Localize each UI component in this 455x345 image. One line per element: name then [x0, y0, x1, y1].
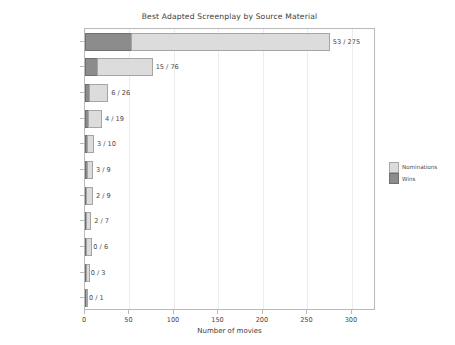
- x-tick-label: 300: [345, 316, 358, 324]
- bar-segment-nominations[interactable]: [89, 84, 108, 102]
- y-tick-mark: [80, 220, 84, 221]
- x-tick-label: 250: [300, 316, 313, 324]
- bar-segment-nominations[interactable]: [97, 58, 152, 76]
- bar-segment-wins[interactable]: [85, 58, 98, 76]
- y-tick-mark: [80, 92, 84, 93]
- legend-label: Nominations: [402, 164, 437, 170]
- chart-legend: NominationsWins: [389, 161, 437, 185]
- x-tick-mark: [217, 310, 218, 314]
- bar-value-label: 6 / 26: [108, 89, 130, 97]
- x-tick-label: 100: [167, 316, 180, 324]
- bar-series-group: 53 / 27515 / 766 / 264 / 193 / 103 / 92 …: [85, 29, 374, 309]
- bar-segment-nominations[interactable]: [87, 135, 94, 153]
- bar-row[interactable]: [85, 187, 93, 205]
- y-tick-mark: [80, 143, 84, 144]
- y-tick-mark: [80, 118, 84, 119]
- legend-label: Wins: [402, 176, 415, 182]
- x-tick-mark: [262, 310, 263, 314]
- bar-segment-nominations[interactable]: [131, 33, 330, 51]
- plot-area: 53 / 27515 / 766 / 264 / 193 / 103 / 92 …: [84, 28, 375, 310]
- x-tick-mark: [84, 310, 85, 314]
- x-axis-label: Number of movies: [84, 327, 375, 335]
- bar-row[interactable]: [85, 110, 102, 128]
- bar-value-label: 0 / 3: [88, 269, 106, 277]
- x-tick-mark: [306, 310, 307, 314]
- bar-value-label: 0 / 1: [86, 294, 104, 302]
- bar-value-label: 2 / 9: [93, 192, 111, 200]
- bar-row[interactable]: [85, 161, 93, 179]
- y-tick-mark: [80, 195, 84, 196]
- x-tick-mark: [128, 310, 129, 314]
- bar-segment-wins[interactable]: [85, 33, 132, 51]
- y-tick-mark: [80, 66, 84, 67]
- legend-swatch: [389, 162, 399, 173]
- legend-item[interactable]: Wins: [389, 173, 437, 185]
- chart-title: Best Adapted Screenplay by Source Materi…: [84, 12, 375, 21]
- bar-value-label: 2 / 7: [91, 217, 109, 225]
- bar-value-label: 53 / 275: [330, 38, 360, 46]
- y-tick-mark: [80, 41, 84, 42]
- bar-value-label: 3 / 9: [93, 166, 111, 174]
- bar-row[interactable]: [85, 135, 94, 153]
- x-tick-label: 200: [256, 316, 269, 324]
- bar-value-label: 3 / 10: [94, 140, 116, 148]
- legend-swatch: [389, 173, 399, 184]
- bar-row[interactable]: [85, 58, 153, 76]
- bar-value-label: 4 / 19: [102, 115, 124, 123]
- bar-segment-nominations[interactable]: [88, 110, 102, 128]
- bar-row[interactable]: [85, 84, 108, 102]
- y-tick-mark: [80, 272, 84, 273]
- legend-item[interactable]: Nominations: [389, 161, 437, 173]
- y-tick-mark: [80, 169, 84, 170]
- bar-value-label: 0 / 6: [90, 243, 108, 251]
- x-tick-label: 0: [82, 316, 86, 324]
- x-tick-label: 150: [211, 316, 224, 324]
- y-tick-mark: [80, 246, 84, 247]
- chart-figure: Best Adapted Screenplay by Source Materi…: [0, 0, 455, 345]
- x-tick-mark: [351, 310, 352, 314]
- y-tick-mark: [80, 297, 84, 298]
- bar-row[interactable]: [85, 33, 330, 51]
- bar-value-label: 15 / 76: [153, 63, 179, 71]
- x-tick-mark: [173, 310, 174, 314]
- x-tick-label: 50: [124, 316, 132, 324]
